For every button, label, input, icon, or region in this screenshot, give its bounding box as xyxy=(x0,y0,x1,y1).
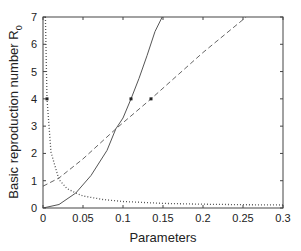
x-tick-label: 0.1 xyxy=(115,212,130,224)
series-solid-marker xyxy=(130,97,133,100)
y-tick-label: 2 xyxy=(31,147,37,159)
x-tick-label: 0 xyxy=(40,212,46,224)
x-tick-label: 0.3 xyxy=(275,212,290,224)
svg-text:Basic reproduction number R0: Basic reproduction number R0 xyxy=(6,25,24,198)
series-dotted-line xyxy=(45,17,283,205)
y-tick-label: 7 xyxy=(31,11,37,23)
y-tick-label: 3 xyxy=(31,120,37,132)
x-tick-label: 0.05 xyxy=(72,212,93,224)
series-dashed-marker xyxy=(150,97,153,100)
x-tick-label: 0.25 xyxy=(232,212,253,224)
chart: 00.050.10.150.20.250.301234567 Parameter… xyxy=(0,0,301,251)
y-tick-label: 5 xyxy=(31,66,37,78)
y-tick-label: 4 xyxy=(31,93,37,105)
y-axis-label: Basic reproduction number R0 xyxy=(6,25,24,198)
series-solid-line xyxy=(43,17,162,208)
axis-ticks: 00.050.10.150.20.250.301234567 xyxy=(31,11,291,224)
y-tick-label: 6 xyxy=(31,38,37,50)
y-tick-label: 0 xyxy=(31,202,37,214)
x-axis-label: Parameters xyxy=(129,230,197,245)
y-tick-label: 1 xyxy=(31,175,37,187)
x-tick-label: 0.2 xyxy=(195,212,210,224)
x-tick-label: 0.15 xyxy=(152,212,173,224)
series-dashed-line xyxy=(43,17,246,186)
axes-frame xyxy=(43,17,283,208)
plot-area xyxy=(43,17,283,208)
